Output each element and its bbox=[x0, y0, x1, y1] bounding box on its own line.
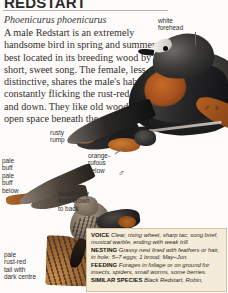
info-entry-heading: SIMILAR SPECIES bbox=[91, 277, 142, 283]
info-entry-heading: NESTING bbox=[91, 247, 117, 253]
info-entry-text: Black Redstart, Robin, bbox=[142, 277, 202, 283]
male-ground-breast bbox=[118, 216, 136, 228]
info-entry: VOICE Clear, rising wheet, sharp tac; so… bbox=[91, 232, 222, 247]
male-symbol-icon: ♂ bbox=[203, 103, 210, 113]
label-bluish-grey-crown-to-back: bluish grey from crown to back bbox=[58, 190, 98, 212]
info-entry-text: Clear, rising wheet, sharp tac; song bri… bbox=[91, 232, 218, 245]
male-symbol-icon-secondary: ♂ bbox=[118, 168, 125, 178]
scientific-name: Phoenicurus phoenicurus bbox=[4, 14, 107, 25]
field-guide-page: REDSTART Phoenicurus phoenicurus A male … bbox=[0, 0, 228, 293]
label-pale-buff: pale buff bbox=[2, 157, 26, 172]
flight-head bbox=[134, 130, 156, 146]
info-entry: NESTING Grassy nest lined with feathers … bbox=[91, 247, 222, 262]
leader-line-rusty-rump bbox=[68, 142, 90, 143]
leader-line-white-forehead bbox=[195, 32, 196, 45]
label-orange-rufous-below: orange- rufous below bbox=[88, 152, 120, 174]
male-bill bbox=[138, 48, 155, 56]
info-entry: SIMILAR SPECIES Black Redstart, Robin, bbox=[91, 277, 222, 284]
male-eye bbox=[163, 46, 168, 51]
label-pale-buff-below: pale buff below bbox=[2, 172, 28, 194]
title-divider bbox=[3, 10, 168, 11]
label-white-forehead: white forehead bbox=[158, 17, 202, 32]
info-entry: FEEDING Forages in foliage or on ground … bbox=[91, 262, 222, 277]
label-pale-rust-red-tail: pale rust-red tail with dark centre bbox=[4, 251, 44, 281]
info-entry-heading: VOICE bbox=[91, 232, 109, 238]
female-symbol-icon: ♀ bbox=[213, 103, 220, 113]
info-entries: VOICE Clear, rising wheet, sharp tac; so… bbox=[91, 232, 222, 285]
species-info-box: VOICE Clear, rising wheet, sharp tac; so… bbox=[86, 228, 227, 292]
info-entry-heading: FEEDING bbox=[91, 262, 117, 268]
